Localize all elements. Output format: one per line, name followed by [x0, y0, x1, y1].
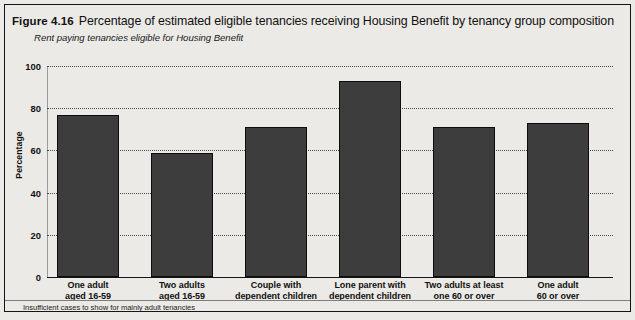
gridline-100 [47, 66, 613, 67]
bar-one-adult-16-59 [57, 115, 119, 277]
x-label-line-1: One adult [67, 280, 108, 290]
y-tick-20: 20 [11, 229, 41, 240]
x-axis-line [47, 277, 613, 278]
y-axis-label: Percentage [14, 115, 24, 195]
y-tick-80: 80 [11, 103, 41, 114]
bar-lone-parent-dependent-children [339, 81, 401, 277]
figure-subtitle: Rent paying tenancies eligible for Housi… [34, 32, 612, 43]
figure-footnote: Insufficient cases to show for mainly ad… [23, 303, 195, 312]
y-axis-ticks: 0 20 40 60 80 100 [7, 66, 41, 277]
figure-number: Figure 4.16 [12, 15, 74, 27]
x-label-line-1: Lone parent with [334, 280, 405, 290]
bar-one-adult-60-plus [527, 123, 589, 277]
figure-header: Figure 4.16Percentage of estimated eligi… [12, 12, 612, 43]
bar-two-adults-16-59 [151, 153, 213, 277]
page-title: Percentage of estimated eligible tenanci… [79, 14, 614, 28]
y-tick-100: 100 [11, 61, 41, 72]
y-tick-0: 0 [11, 272, 41, 283]
gridline-80 [47, 108, 613, 109]
bar-two-adults-one-60-plus [433, 127, 495, 277]
plot-area [47, 66, 613, 277]
x-label-line-1: Couple with [251, 280, 301, 290]
x-label-line-1: One adult [537, 280, 578, 290]
x-label-line-1: Two adults [159, 280, 205, 290]
x-label-line-1: Two adults at least [425, 280, 504, 290]
figure-panel: Figure 4.16Percentage of estimated eligi… [0, 0, 635, 320]
bar-couple-dependent-children [245, 127, 307, 277]
footnote-divider [5, 300, 630, 301]
figure-title-line: Figure 4.16Percentage of estimated eligi… [12, 12, 612, 29]
